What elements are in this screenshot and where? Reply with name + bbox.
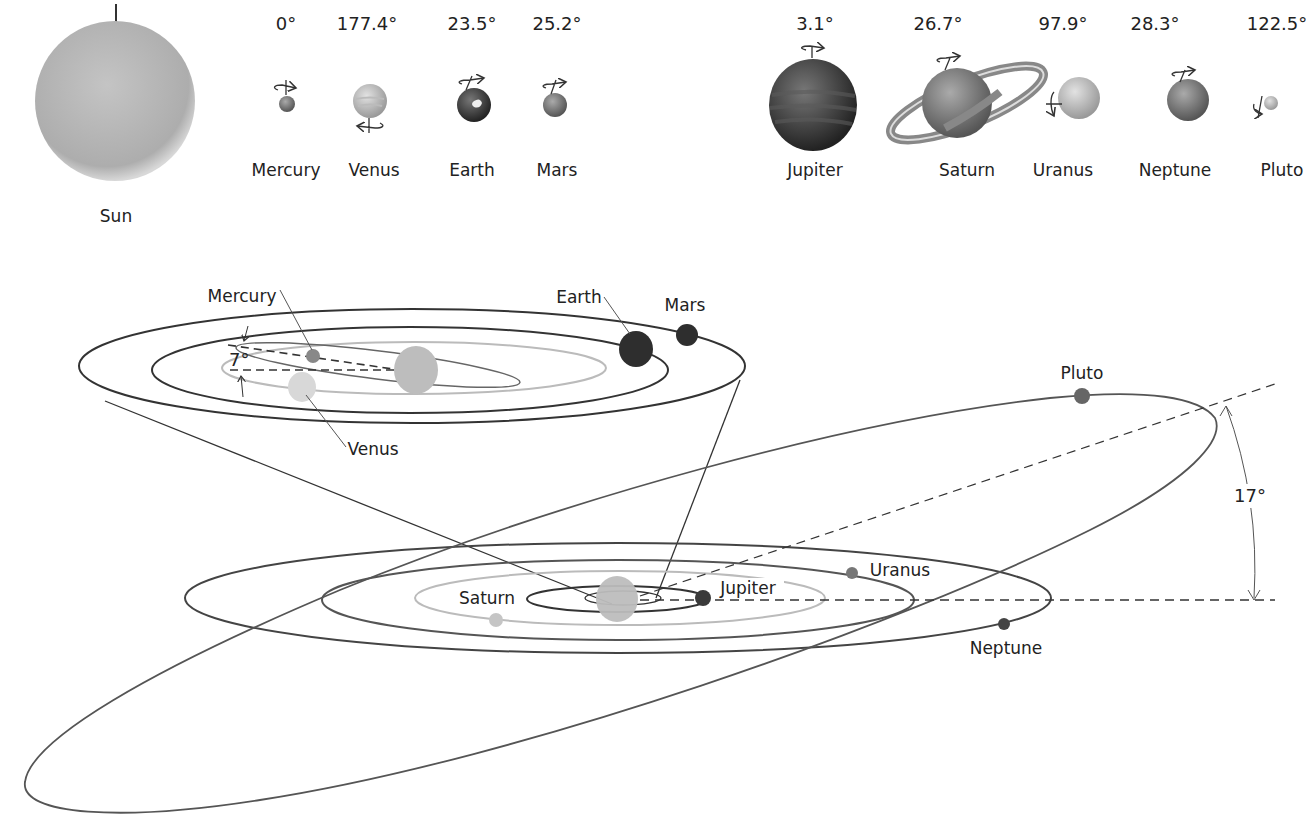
planet-neptune: 28.3° Neptune	[1130, 13, 1211, 180]
arc-arrow-up-icon	[1220, 406, 1232, 416]
planet-jupiter: 3.1° Jupiter	[769, 13, 857, 180]
planet-pluto: 122.5° Pluto	[1247, 13, 1306, 180]
venus-dot	[288, 372, 316, 402]
planet-earth: 23.5° Earth	[447, 13, 496, 180]
planet-saturn: 26.7° Saturn	[883, 13, 1052, 180]
planet-mercury: 0° Mercury	[252, 13, 321, 180]
jupiter-orbit-label: Jupiter	[719, 578, 775, 598]
mars-tilt: 25.2°	[532, 13, 581, 34]
earth-orbit-label: Earth	[556, 287, 602, 307]
venus-orbit-label: Venus	[347, 439, 398, 459]
rotation-arrow-icon	[1254, 96, 1262, 118]
uranus-label: Uranus	[1033, 160, 1093, 180]
saturn-orbit-label: Saturn	[459, 588, 515, 608]
mars-dot	[676, 324, 698, 346]
neptune-orbit-label: Neptune	[970, 638, 1043, 658]
mercury-orbit-label: Mercury	[208, 286, 277, 306]
venus-tilt: 177.4°	[337, 13, 398, 34]
saturn-dot	[489, 613, 503, 627]
uranus-icon	[1058, 77, 1100, 119]
sun-inset-icon	[394, 346, 438, 394]
earth-tilt: 23.5°	[447, 13, 496, 34]
mercury-tilt: 0°	[276, 13, 296, 34]
sun-center-icon	[596, 576, 638, 622]
mercury-icon	[279, 96, 295, 112]
earth-dot	[619, 331, 653, 367]
pluto-dot	[1074, 388, 1090, 404]
sun-icon	[35, 21, 195, 181]
neptune-icon	[1167, 79, 1209, 121]
mars-label: Mars	[537, 160, 578, 180]
jupiter-dot	[695, 590, 711, 606]
rotation-arrow-icon	[543, 80, 566, 94]
pluto-label: Pluto	[1261, 160, 1304, 180]
rotation-arrow-icon	[802, 46, 824, 58]
pluto-orbit-label: Pluto	[1061, 363, 1104, 383]
planet-mars: 25.2° Mars	[532, 13, 581, 180]
neptune-dot	[998, 618, 1010, 630]
uranus-dot	[846, 567, 858, 579]
rotation-arrow-icon	[275, 80, 296, 95]
projection-line-right	[656, 380, 740, 598]
inner-system-inset: 7° Mercury Venus Earth Mars	[79, 286, 745, 604]
mars-icon	[543, 93, 567, 117]
pluto-tilt: 122.5°	[1247, 13, 1306, 34]
mercury-label: Mercury	[252, 160, 321, 180]
jupiter-label: Jupiter	[786, 160, 842, 180]
rotation-arrow-icon	[357, 118, 383, 133]
earth-label: Earth	[449, 160, 495, 180]
sun-group: Sun	[35, 4, 195, 226]
rotation-arrow-icon	[459, 76, 484, 90]
rotation-arrow-icon	[937, 56, 960, 70]
planet-venus: 177.4° Venus	[337, 13, 400, 180]
mercury-dot	[306, 349, 320, 363]
uranus-orbit-label: Uranus	[870, 560, 930, 580]
mars-orbit-label: Mars	[665, 295, 706, 315]
pluto-inclination-label: 17°	[1234, 485, 1266, 506]
sun-label: Sun	[100, 206, 132, 226]
pluto-icon	[1264, 96, 1278, 110]
uranus-tilt: 97.9°	[1038, 13, 1087, 34]
saturn-label: Saturn	[939, 160, 995, 180]
venus-icon	[353, 84, 387, 118]
planet-uranus: 97.9° Uranus	[1033, 13, 1100, 180]
solar-system-diagram: Sun 0° Mercury 177.4° Venus 23.5° Earth …	[0, 0, 1306, 832]
neptune-label: Neptune	[1139, 160, 1212, 180]
neptune-tilt: 28.3°	[1130, 13, 1179, 34]
outer-system: 17° Jupiter Saturn Uranus Neptune Pluto	[25, 363, 1275, 813]
saturn-tilt: 26.7°	[913, 13, 962, 34]
venus-label: Venus	[348, 160, 399, 180]
jupiter-tilt: 3.1°	[796, 13, 834, 34]
mercury-inclination-label: 7°	[229, 349, 249, 370]
